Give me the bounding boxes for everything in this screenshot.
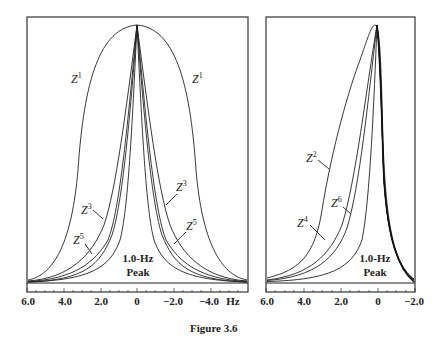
- left-tick-label: 4.0: [58, 295, 72, 307]
- right-peak-label-line1: 1.0-Hz: [360, 252, 391, 264]
- right-tick-label: 2.0: [334, 295, 348, 307]
- left-label-z5-left: Z5: [73, 232, 84, 247]
- left-tick-label: 0: [134, 295, 140, 307]
- left-panel: Z1 Z1 Z3 Z3 Z5 Z5 1.0-Hz Peak 6.0 4.0 2.…: [21, 17, 248, 307]
- left-curve-1hz-peak: [28, 25, 247, 282]
- left-curve-z1: [28, 25, 247, 280]
- right-panel: Z2 Z6 Z4 1.0-Hz Peak 6.0 4.0 2.0 0 −2.0: [260, 17, 424, 307]
- figure-canvas: Z1 Z1 Z3 Z3 Z5 Z5 1.0-Hz Peak 6.0 4.0 2.…: [0, 0, 440, 344]
- left-tick-label: −2.0: [163, 295, 184, 307]
- left-curve-z5: [28, 25, 247, 282]
- right-peak-label-line2: Peak: [363, 266, 387, 278]
- right-shared-flank: [377, 25, 414, 282]
- left-label-z1-left: Z1: [71, 71, 82, 86]
- left-curve-z3: [28, 25, 247, 281]
- figure-caption: Figure 3.6: [190, 322, 237, 334]
- left-tick-label: −4.0: [199, 295, 220, 307]
- left-label-z5-right: Z5: [186, 218, 197, 233]
- left-tick-label: 6.0: [21, 295, 35, 307]
- right-tick-label: 6.0: [260, 295, 274, 307]
- left-label-z3-right: Z3: [176, 179, 187, 194]
- left-leader-z3-left: [93, 210, 103, 219]
- right-tick-label: 4.0: [297, 295, 311, 307]
- right-plot-frame: [266, 17, 415, 292]
- left-label-z3-left: Z3: [81, 202, 92, 217]
- left-peak-label-line1: 1.0-Hz: [123, 252, 154, 264]
- right-leader-z2: [318, 160, 329, 169]
- left-tick-label: 2.0: [94, 295, 108, 307]
- left-peak-label-line2: Peak: [126, 266, 150, 278]
- left-label-z1-right: Z1: [192, 71, 203, 86]
- left-leader-z3-right: [166, 194, 177, 205]
- left-axis-unit-label: Hz: [226, 295, 240, 307]
- right-label-z4: Z4: [297, 215, 308, 230]
- right-leader-z4: [310, 225, 325, 240]
- right-tick-label: 0: [375, 295, 381, 307]
- right-tick-label: −2.0: [404, 295, 425, 307]
- right-label-z6: Z6: [331, 195, 342, 210]
- right-label-z2: Z2: [306, 150, 317, 165]
- left-curve-inner: [28, 25, 247, 282]
